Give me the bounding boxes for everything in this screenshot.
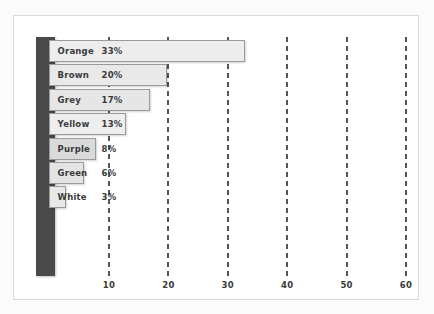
bar-value-label: 13%: [102, 113, 123, 135]
bar-value-label: 6%: [102, 162, 117, 184]
x-tick-label-60: 60: [391, 280, 421, 290]
bar-value-label: 20%: [102, 64, 123, 86]
bars-layer: Orange33%Brown20%Grey17%Yellow13%Purple8…: [14, 16, 420, 301]
bar-category-label: Purple: [58, 138, 90, 160]
x-tick-label-20: 20: [153, 280, 183, 290]
bar-value-label: 8%: [102, 138, 117, 160]
bar-value-label: 3%: [102, 186, 117, 208]
chart-page: Orange33%Brown20%Grey17%Yellow13%Purple8…: [0, 0, 434, 314]
bar-category-label: Yellow: [58, 113, 90, 135]
bar-category-label: Orange: [58, 40, 94, 62]
x-tick-label-40: 40: [272, 280, 302, 290]
x-tick-label-30: 30: [213, 280, 243, 290]
bar-category-label: White: [58, 186, 87, 208]
bar-value-label: 17%: [102, 89, 123, 111]
chart-frame: Orange33%Brown20%Grey17%Yellow13%Purple8…: [13, 15, 419, 300]
plot-area: Orange33%Brown20%Grey17%Yellow13%Purple8…: [14, 16, 420, 301]
bar-category-label: Brown: [58, 64, 89, 86]
bar-value-label: 33%: [102, 40, 123, 62]
x-tick-label-50: 50: [332, 280, 362, 290]
bar-category-label: Green: [58, 162, 88, 184]
bar-category-label: Grey: [58, 89, 81, 111]
x-tick-label-10: 10: [94, 280, 124, 290]
